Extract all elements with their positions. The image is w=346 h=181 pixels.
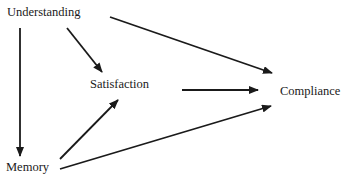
node-satisfaction: Satisfaction — [90, 78, 149, 91]
path-diagram: Understanding Satisfaction Compliance Me… — [0, 0, 346, 181]
edge-understanding-satisfaction — [67, 28, 102, 72]
edge-understanding-compliance — [110, 17, 272, 73]
edge-memory-compliance — [60, 106, 271, 169]
node-compliance: Compliance — [280, 85, 340, 98]
node-memory: Memory — [6, 161, 49, 174]
node-understanding: Understanding — [7, 6, 81, 19]
edge-memory-satisfaction — [60, 100, 118, 159]
